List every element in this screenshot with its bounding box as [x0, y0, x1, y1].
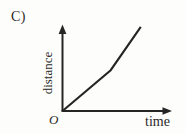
distance-time-graph-figure: C) distance time O — [0, 0, 186, 134]
arrow-up-icon — [59, 25, 67, 35]
origin-label: O — [49, 113, 58, 126]
data-series-line — [63, 27, 141, 111]
y-axis-label: distance — [41, 52, 54, 95]
x-axis-label: time — [145, 115, 170, 129]
